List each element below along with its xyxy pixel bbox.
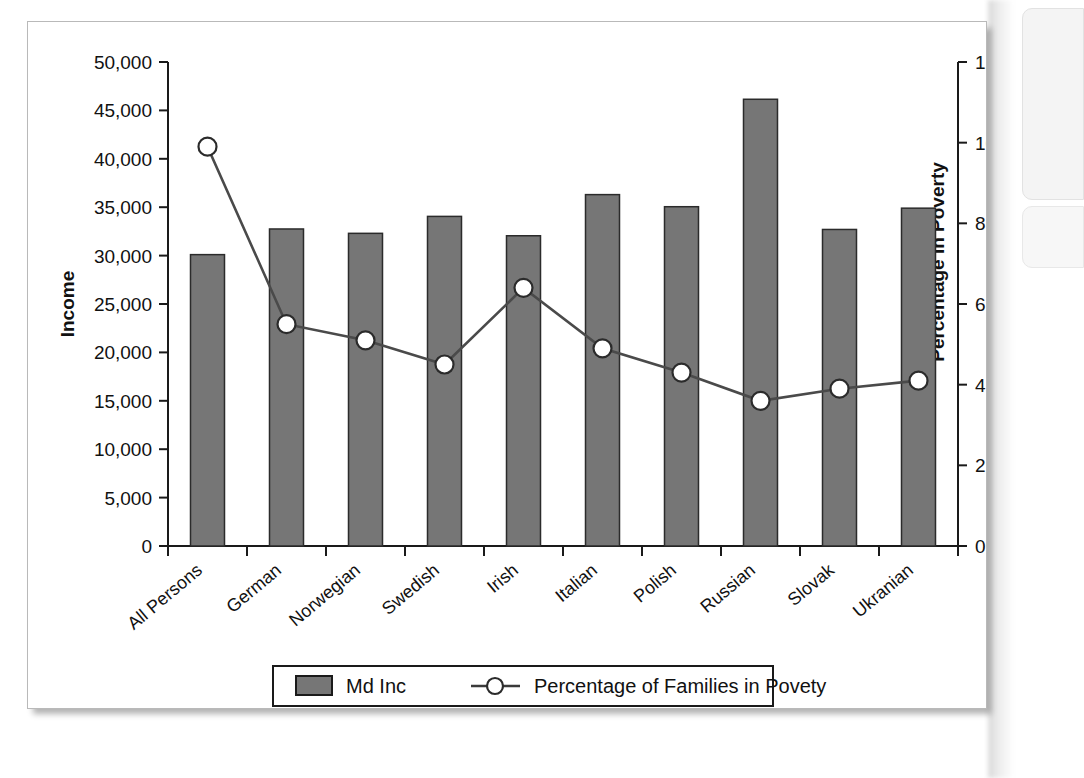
y2-tick-label: 4: [975, 375, 986, 396]
line-marker: [831, 380, 849, 398]
line-marker: [910, 372, 928, 390]
legend-circle-icon: [487, 678, 503, 694]
x-axis-ticks: [168, 546, 958, 556]
line-marker: [199, 138, 217, 156]
line-marker: [594, 339, 612, 357]
line-marker: [673, 364, 691, 382]
y-tick-label: 50,000: [94, 52, 152, 73]
category-label: Swedish: [378, 560, 443, 619]
category-label: Russian: [696, 560, 759, 617]
figure-panel: 50,00045,00040,00035,00030,00025,00020,0…: [27, 21, 987, 709]
legend-label-line: Percentage of Families in Povety: [534, 675, 826, 697]
legend-label-bar: Md Inc: [346, 675, 406, 697]
line-marker: [515, 279, 533, 297]
bar: [349, 233, 383, 546]
line-series-markers: [199, 138, 928, 410]
bar: [744, 99, 778, 546]
y-tick-label: 30,000: [94, 246, 152, 267]
y-tick-label: 45,000: [94, 100, 152, 121]
category-label: Norwegian: [285, 560, 364, 631]
y-tick-label: 10,000: [94, 439, 152, 460]
bar: [191, 255, 225, 546]
page-gutter-shadow: [988, 0, 1014, 778]
side-panel-card-top: [1022, 8, 1084, 200]
y-tick-label: 5,000: [104, 488, 152, 509]
legend-swatch-bar: [296, 676, 332, 695]
y-axis-right-ticks: [958, 62, 967, 546]
y-tick-label: 20,000: [94, 342, 152, 363]
line-marker: [357, 331, 375, 349]
category-label: Ukranian: [849, 560, 917, 622]
y-tick-label: 25,000: [94, 294, 152, 315]
y-axis-right-tick-labels: 121086420: [975, 52, 986, 557]
bar-series: [191, 99, 936, 546]
category-label: Italian: [551, 560, 601, 606]
y-axis-left-tick-labels: 50,00045,00040,00035,00030,00025,00020,0…: [94, 52, 152, 557]
y2-tick-label: 6: [975, 294, 986, 315]
bar: [270, 229, 304, 546]
legend: Md Inc Percentage of Families in Povety: [273, 666, 826, 706]
y-tick-label: 0: [141, 536, 152, 557]
category-label: Polish: [630, 560, 680, 607]
line-marker: [752, 392, 770, 410]
y2-tick-label: 0: [975, 536, 986, 557]
y2-tick-label: 8: [975, 213, 986, 234]
combo-chart: 50,00045,00040,00035,00030,00025,00020,0…: [28, 22, 986, 708]
y-tick-label: 35,000: [94, 197, 152, 218]
bar: [586, 195, 620, 546]
y2-tick-label: 12: [975, 52, 986, 73]
line-marker: [436, 356, 454, 374]
y-axis-left-ticks: [159, 62, 168, 546]
line-series-path: [208, 147, 919, 401]
bar: [428, 216, 462, 546]
line-marker: [278, 315, 296, 333]
x-axis-category-labels: All PersonsGermanNorwegianSwedishIrishIt…: [123, 559, 917, 633]
y2-tick-label: 10: [975, 133, 986, 154]
category-label: All Persons: [123, 560, 206, 634]
category-label: German: [222, 560, 285, 617]
y2-tick-label: 2: [975, 455, 986, 476]
side-panel-card-bottom: [1022, 206, 1084, 268]
y-axis-left-title: Income: [57, 271, 78, 338]
category-label: Irish: [483, 560, 522, 597]
category-label: Slovak: [784, 559, 839, 610]
y-tick-label: 40,000: [94, 149, 152, 170]
y-tick-label: 15,000: [94, 391, 152, 412]
